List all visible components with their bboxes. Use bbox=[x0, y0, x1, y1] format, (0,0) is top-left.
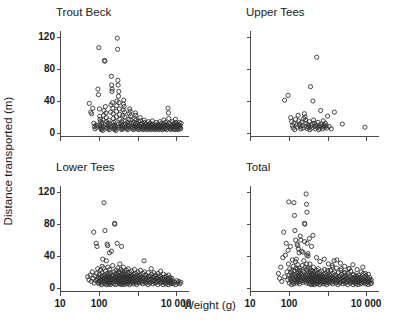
x-tick bbox=[250, 137, 251, 141]
x-axis-spine bbox=[250, 291, 379, 292]
x-axis-spine bbox=[250, 136, 379, 137]
panel-title-trout-beck: Trout Beck bbox=[56, 6, 111, 18]
y-tick bbox=[57, 288, 61, 289]
panel-title-total: Total bbox=[246, 161, 270, 173]
y-tick-label: 40 bbox=[24, 250, 55, 261]
y-tick bbox=[247, 133, 251, 134]
x-axis-spine bbox=[60, 291, 189, 292]
y-tick bbox=[57, 101, 61, 102]
figure-scatter-matrix: Distance transported (m) Weight (g) Trou… bbox=[0, 0, 419, 322]
y-tick bbox=[57, 224, 61, 225]
y-tick bbox=[247, 256, 251, 257]
y-axis-spine bbox=[250, 186, 251, 292]
y-tick-label: 80 bbox=[24, 218, 55, 229]
y-axis-label: Distance transported (m) bbox=[0, 0, 17, 322]
x-tick bbox=[250, 292, 251, 296]
panel-title-lower-tees: Lower Tees bbox=[56, 161, 115, 173]
y-axis-spine bbox=[60, 31, 61, 137]
y-tick-label: 80 bbox=[24, 63, 55, 74]
x-tick bbox=[99, 292, 100, 296]
y-axis-spine bbox=[60, 186, 61, 292]
x-tick bbox=[138, 292, 139, 296]
y-axis-label-text: Distance transported (m) bbox=[2, 97, 14, 226]
y-tick-label: 40 bbox=[24, 95, 55, 106]
y-tick bbox=[247, 224, 251, 225]
x-tick bbox=[366, 292, 367, 296]
y-tick bbox=[57, 37, 61, 38]
x-tick bbox=[366, 137, 367, 141]
x-tick-label: 100 bbox=[281, 298, 298, 309]
y-tick-label: 120 bbox=[24, 186, 55, 197]
panel-title-upper-tees: Upper Tees bbox=[246, 6, 305, 18]
x-tick-label: 10 bbox=[244, 298, 255, 309]
y-axis-spine bbox=[250, 31, 251, 137]
y-tick-label: 0 bbox=[24, 282, 55, 293]
x-tick bbox=[176, 137, 177, 141]
y-tick bbox=[247, 288, 251, 289]
x-tick bbox=[60, 137, 61, 141]
y-tick bbox=[57, 69, 61, 70]
y-tick bbox=[57, 192, 61, 193]
y-tick bbox=[247, 192, 251, 193]
x-tick bbox=[99, 137, 100, 141]
y-tick bbox=[247, 69, 251, 70]
x-axis-spine bbox=[60, 136, 189, 137]
y-tick-label: 0 bbox=[24, 127, 55, 138]
x-tick bbox=[328, 292, 329, 296]
x-tick bbox=[289, 292, 290, 296]
x-tick-label: 10 000 bbox=[351, 298, 382, 309]
y-tick bbox=[57, 133, 61, 134]
x-tick-label: 10 bbox=[54, 298, 65, 309]
y-tick bbox=[247, 101, 251, 102]
x-tick bbox=[60, 292, 61, 296]
y-tick-label: 120 bbox=[24, 31, 55, 42]
y-tick bbox=[247, 37, 251, 38]
x-tick-label: 10 000 bbox=[161, 298, 192, 309]
x-tick-label: 100 bbox=[91, 298, 108, 309]
x-tick bbox=[289, 137, 290, 141]
x-tick bbox=[328, 137, 329, 141]
y-tick bbox=[57, 256, 61, 257]
x-tick bbox=[138, 137, 139, 141]
x-tick bbox=[176, 292, 177, 296]
